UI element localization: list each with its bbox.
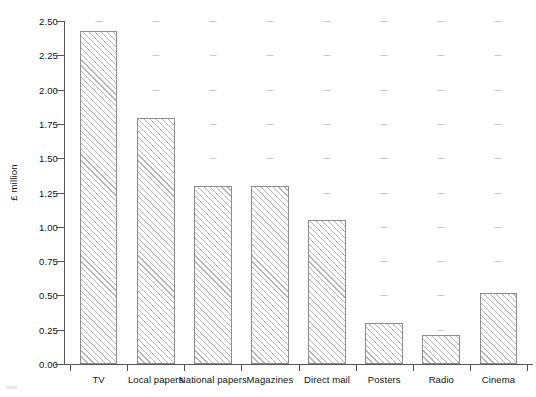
grid-dash-mark xyxy=(381,295,388,296)
y-axis-tick-mark xyxy=(56,158,65,159)
bar xyxy=(422,335,460,364)
bar xyxy=(308,220,346,364)
x-axis-tick-mark xyxy=(356,365,357,371)
grid-dash-mark xyxy=(495,124,502,125)
grid-dash-mark xyxy=(495,90,502,91)
x-axis-category-label: Cinema xyxy=(482,374,515,385)
grid-dash-mark xyxy=(381,124,388,125)
grid-dash-mark xyxy=(324,158,331,159)
y-axis-tick-mark xyxy=(56,261,65,262)
grid-dash-mark xyxy=(495,261,502,262)
plot-area: TVLocal papersNational papersMagazinesDi… xyxy=(64,21,521,364)
bar xyxy=(137,118,175,364)
y-axis-tick-mark xyxy=(56,90,65,91)
x-axis-category-label: TV xyxy=(92,374,104,385)
bar xyxy=(480,293,518,364)
x-axis-tick-mark xyxy=(70,365,71,371)
grid-dash-mark xyxy=(495,21,502,22)
grid-dash-mark xyxy=(438,193,445,194)
grid-dash-mark xyxy=(209,158,216,159)
grid-dash-mark xyxy=(266,124,273,125)
grid-dash-mark xyxy=(438,55,445,56)
grid-dash-mark xyxy=(209,55,216,56)
y-axis-tick-mark xyxy=(56,124,65,125)
grid-dash-mark xyxy=(266,55,273,56)
bar xyxy=(365,323,403,364)
grid-dash-mark xyxy=(266,158,273,159)
grid-dash-mark xyxy=(438,330,445,331)
grid-dash-mark xyxy=(381,158,388,159)
y-axis-title: £ million xyxy=(0,0,26,364)
grid-dash-mark xyxy=(438,261,445,262)
x-axis-tick-mark xyxy=(299,365,300,371)
grid-dash-mark xyxy=(381,21,388,22)
grid-dash-mark xyxy=(381,261,388,262)
grid-dash-mark xyxy=(438,227,445,228)
grid-dash-mark xyxy=(324,193,331,194)
x-axis-category-label: Radio xyxy=(429,374,454,385)
grid-dash-mark xyxy=(95,21,102,22)
x-axis-tick-mark xyxy=(127,365,128,371)
y-axis-tick-mark xyxy=(56,55,65,56)
grid-dash-mark xyxy=(209,124,216,125)
grid-dash-mark xyxy=(438,124,445,125)
grid-dash-mark xyxy=(381,193,388,194)
grid-dash-mark xyxy=(381,227,388,228)
bar xyxy=(251,186,289,364)
x-axis-category-label: National papers xyxy=(179,374,247,385)
grid-dash-mark xyxy=(438,90,445,91)
y-axis-title-text: £ million xyxy=(8,164,19,201)
grid-dash-mark xyxy=(495,227,502,228)
grid-dash-mark xyxy=(495,193,502,194)
scan-artifact xyxy=(6,386,17,389)
grid-dash-mark xyxy=(152,55,159,56)
bar xyxy=(194,186,232,364)
y-axis-tick-mark xyxy=(56,330,65,331)
y-axis-tick-mark xyxy=(56,295,65,296)
y-axis-tick-mark xyxy=(56,227,65,228)
x-axis-category-label: Direct mail xyxy=(304,374,350,385)
x-axis-category-label: Posters xyxy=(368,374,401,385)
x-axis-tick-mark xyxy=(241,365,242,371)
bar xyxy=(80,31,118,364)
grid-dash-mark xyxy=(209,90,216,91)
x-axis-tick-mark xyxy=(527,365,528,371)
y-axis-tick-mark xyxy=(56,21,65,22)
grid-dash-mark xyxy=(266,21,273,22)
grid-dash-mark xyxy=(324,21,331,22)
bar-chart: £ million 0.000.250.500.751.001.251.501.… xyxy=(0,0,536,397)
y-axis-tick-labels: 0.000.250.500.751.001.251.501.752.002.25… xyxy=(26,0,64,397)
grid-dash-mark xyxy=(324,124,331,125)
y-axis-tick-mark xyxy=(56,364,65,365)
x-axis-category-label: Magazines xyxy=(247,374,294,385)
grid-dash-mark xyxy=(438,158,445,159)
grid-dash-mark xyxy=(209,21,216,22)
grid-dash-mark xyxy=(324,90,331,91)
x-axis-tick-mark xyxy=(413,365,414,371)
grid-dash-mark xyxy=(438,295,445,296)
grid-dash-mark xyxy=(324,55,331,56)
grid-dash-mark xyxy=(152,90,159,91)
x-axis-tick-mark xyxy=(184,365,185,371)
grid-dash-mark xyxy=(152,21,159,22)
grid-dash-mark xyxy=(266,90,273,91)
y-axis-tick-mark xyxy=(56,193,65,194)
grid-dash-mark xyxy=(495,55,502,56)
grid-dash-mark xyxy=(495,158,502,159)
grid-dash-mark xyxy=(381,90,388,91)
x-axis-tick-mark xyxy=(470,365,471,371)
grid-dash-mark xyxy=(438,21,445,22)
x-axis-category-label: Local papers xyxy=(128,374,184,385)
grid-dash-mark xyxy=(381,55,388,56)
